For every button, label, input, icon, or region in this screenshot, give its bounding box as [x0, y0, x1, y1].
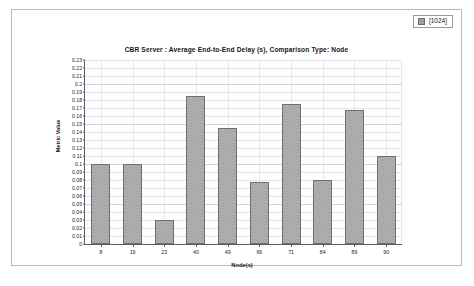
y-tick-label: 0.16: [72, 113, 82, 119]
y-tick-mark: [83, 60, 85, 61]
y-tick-label: 0.22: [72, 65, 82, 71]
y-tick-label: 0.03: [72, 217, 82, 223]
chart-title: CBR Server : Average End-to-End Delay (s…: [12, 46, 461, 53]
y-tick-label: 0.12: [72, 145, 82, 151]
x-tick-mark: [228, 244, 229, 247]
y-tick-label: 0.18: [72, 97, 82, 103]
y-tick-mark: [83, 156, 85, 157]
y-tick-mark: [83, 236, 85, 237]
y-tick-mark: [83, 140, 85, 141]
chart-legend[interactable]: [1024]: [413, 15, 453, 28]
x-tick-mark: [196, 244, 197, 247]
y-tick-label: 0.06: [72, 193, 82, 199]
y-tick-mark: [83, 92, 85, 93]
y-tick-mark: [83, 108, 85, 109]
bar-89[interactable]: [345, 110, 364, 244]
y-tick-mark: [83, 212, 85, 213]
x-tick-label: 49: [225, 249, 231, 255]
x-axis-title: Node(s): [82, 262, 402, 268]
y-tick-label: 0.02: [72, 225, 82, 231]
y-tick-label: 0.19: [72, 89, 82, 95]
y-tick-label: 0.14: [72, 129, 82, 135]
y-tick-label: 0: [79, 241, 82, 247]
x-tick-mark: [354, 244, 355, 247]
x-tick-label: 84: [320, 249, 326, 255]
x-tick-mark: [291, 244, 292, 247]
y-tick-mark: [83, 116, 85, 117]
bar-49[interactable]: [218, 128, 237, 244]
y-tick-label: 0.05: [72, 201, 82, 207]
y-tick-mark: [83, 132, 85, 133]
y-tick-label: 0.15: [72, 121, 82, 127]
x-tick-label: 71: [288, 249, 294, 255]
x-tick-mark: [164, 244, 165, 247]
y-tick-label: 0.23: [72, 57, 82, 63]
x-tick-mark: [101, 244, 102, 247]
bar-19[interactable]: [123, 164, 142, 244]
y-tick-label: 0.1: [75, 161, 82, 167]
y-tick-label: 0.08: [72, 177, 82, 183]
y-tick-label: 0.21: [72, 73, 82, 79]
y-tick-mark: [83, 196, 85, 197]
y-tick-label: 0.01: [72, 233, 82, 239]
y-tick-label: 0.17: [72, 105, 82, 111]
x-tick-mark: [133, 244, 134, 247]
bar-8[interactable]: [91, 164, 110, 244]
plot-area: 00.010.020.030.040.050.060.070.080.090.1…: [84, 60, 402, 245]
vertical-gridline: [164, 60, 165, 244]
y-tick-label: 0.13: [72, 137, 82, 143]
y-tick-label: 0.07: [72, 185, 82, 191]
x-tick-mark: [323, 244, 324, 247]
y-tick-label: 0.2: [75, 81, 82, 87]
y-tick-mark: [83, 84, 85, 85]
y-tick-mark: [83, 100, 85, 101]
x-tick-label: 23: [161, 249, 167, 255]
bar-23[interactable]: [155, 220, 174, 244]
x-tick-label: 8: [99, 249, 102, 255]
x-tick-label: 66: [256, 249, 262, 255]
y-tick-mark: [83, 148, 85, 149]
plot-right-rule: [401, 60, 402, 244]
x-tick-label: 40: [193, 249, 199, 255]
bar-71[interactable]: [282, 104, 301, 244]
y-tick-mark: [83, 244, 85, 245]
x-tick-mark: [259, 244, 260, 247]
y-tick-label: 0.09: [72, 169, 82, 175]
chart-window: [1024] CBR Server : Average End-to-End D…: [11, 9, 462, 266]
y-tick-mark: [83, 124, 85, 125]
y-tick-mark: [83, 180, 85, 181]
y-tick-label: 0.11: [72, 153, 82, 159]
y-tick-mark: [83, 204, 85, 205]
y-tick-mark: [83, 164, 85, 165]
x-tick-label: 90: [383, 249, 389, 255]
y-tick-mark: [83, 188, 85, 189]
y-tick-mark: [83, 68, 85, 69]
bar-66[interactable]: [250, 182, 269, 244]
y-axis-title: Metric Value: [55, 106, 61, 166]
x-tick-label: 89: [352, 249, 358, 255]
legend-swatch-icon: [418, 18, 425, 25]
x-tick-label: 19: [130, 249, 136, 255]
y-tick-mark: [83, 228, 85, 229]
y-tick-mark: [83, 76, 85, 77]
bar-84[interactable]: [313, 180, 332, 244]
bar-90[interactable]: [377, 156, 396, 244]
bar-40[interactable]: [186, 96, 205, 244]
x-tick-mark: [386, 244, 387, 247]
y-tick-mark: [83, 220, 85, 221]
y-tick-label: 0.04: [72, 209, 82, 215]
legend-series-label: [1024]: [429, 18, 447, 25]
y-tick-mark: [83, 172, 85, 173]
